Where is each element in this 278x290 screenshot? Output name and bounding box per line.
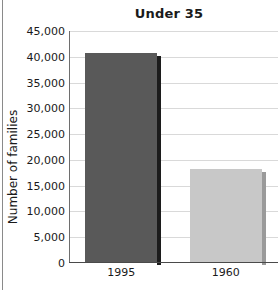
x-axis-tick-label-group: 19951960	[69, 266, 278, 286]
y-axis-tick-label: 0	[13, 257, 65, 270]
x-axis-line	[69, 262, 278, 263]
y-axis-line	[69, 31, 70, 263]
chart-title: Under 35	[60, 6, 278, 21]
y-axis-tick-label: 30,000	[13, 102, 65, 115]
y-axis-tick-label-group: 05,00010,00015,00020,00025,00030,00035,0…	[10, 31, 65, 263]
bar-1995	[85, 53, 157, 262]
bar-shadow	[262, 172, 266, 265]
bar-body	[190, 169, 262, 262]
y-axis-tick-label: 45,000	[13, 25, 65, 38]
y-axis-tick-label: 40,000	[13, 50, 65, 63]
bar-body	[85, 53, 157, 262]
y-axis-tick-label: 20,000	[13, 153, 65, 166]
y-axis-tick-label: 15,000	[13, 179, 65, 192]
y-axis-tick-label: 5,000	[13, 231, 65, 244]
bar-shadow	[157, 56, 161, 265]
bar-1960	[190, 169, 262, 262]
y-axis-tick-label: 25,000	[13, 128, 65, 141]
x-axis-tick-label: 1995	[107, 266, 135, 279]
bar-chart-figure: Under 35 Number of families 05,00010,000…	[0, 0, 278, 290]
x-axis-tick-label: 1960	[212, 266, 240, 279]
gridline	[69, 31, 278, 32]
y-axis-tick-label: 35,000	[13, 76, 65, 89]
y-axis-tick-label: 10,000	[13, 205, 65, 218]
plot-area	[69, 31, 278, 263]
